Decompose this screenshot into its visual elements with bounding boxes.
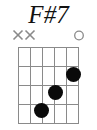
string-markers-row xyxy=(0,29,97,45)
chord-diagram-card: F#7 xyxy=(0,0,97,130)
muted-string-marker-2 xyxy=(23,29,37,45)
fretboard-grid xyxy=(18,47,79,124)
open-string-marker-6 xyxy=(72,29,86,45)
chord-name-title: F#7 xyxy=(0,0,97,30)
